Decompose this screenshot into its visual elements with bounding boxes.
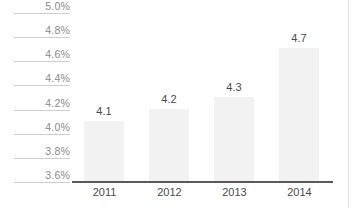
y-axis-tick: 5.0%	[12, 0, 70, 14]
x-axis-tick-label: 2012	[137, 186, 202, 198]
y-axis-tick-rule	[14, 37, 70, 38]
plot-area: 4.14.24.34.7	[72, 0, 333, 181]
y-axis-tick: 4.6%	[12, 46, 70, 62]
y-axis-tick-label: 4.0%	[45, 121, 70, 133]
bar[interactable]	[279, 48, 319, 181]
bar[interactable]	[149, 109, 189, 181]
bar-value-label: 4.3	[202, 81, 266, 93]
y-axis-tick: 3.6%	[12, 167, 70, 183]
y-axis-tick-rule	[14, 85, 70, 86]
bar[interactable]	[214, 97, 254, 182]
y-axis-tick-label: 4.2%	[45, 97, 70, 109]
x-axis-tick-label: 2014	[267, 186, 332, 198]
bar-group: 4.1	[72, 0, 137, 181]
y-axis-tick-rule	[14, 110, 70, 111]
bar-group: 4.2	[137, 0, 202, 181]
bar-chart: 3.6%3.8%4.0%4.2%4.4%4.6%4.8%5.0% 4.14.24…	[0, 0, 357, 208]
y-axis-tick-rule	[14, 134, 70, 135]
bar[interactable]	[84, 121, 124, 181]
x-axis-tick-label: 2011	[72, 186, 137, 198]
y-axis-tick-rule	[14, 13, 70, 14]
y-axis-tick-label: 4.6%	[45, 48, 70, 60]
y-axis-tick-label: 4.8%	[45, 24, 70, 36]
y-axis-tick-rule	[14, 182, 70, 183]
bar-value-label: 4.7	[267, 32, 331, 44]
y-axis-tick-label: 3.6%	[45, 169, 70, 181]
x-axis-tick-label: 2013	[202, 186, 267, 198]
y-axis-tick-label: 4.4%	[45, 72, 70, 84]
y-axis-tick-label: 3.8%	[45, 145, 70, 157]
y-axis-tick: 4.2%	[12, 95, 70, 111]
bar-value-label: 4.2	[137, 93, 201, 105]
bar-group: 4.3	[202, 0, 267, 181]
y-axis-tick-rule	[14, 61, 70, 62]
y-axis-tick: 3.8%	[12, 143, 70, 159]
bar-value-label: 4.1	[72, 105, 136, 117]
x-axis-line	[72, 181, 333, 183]
y-axis-tick-rule	[14, 158, 70, 159]
y-axis-tick-label: 5.0%	[45, 0, 70, 12]
y-axis-tick: 4.8%	[12, 22, 70, 38]
y-axis-tick: 4.4%	[12, 70, 70, 86]
right-edge-rule	[348, 0, 349, 208]
bar-group: 4.7	[267, 0, 332, 181]
y-axis-tick: 4.0%	[12, 119, 70, 135]
